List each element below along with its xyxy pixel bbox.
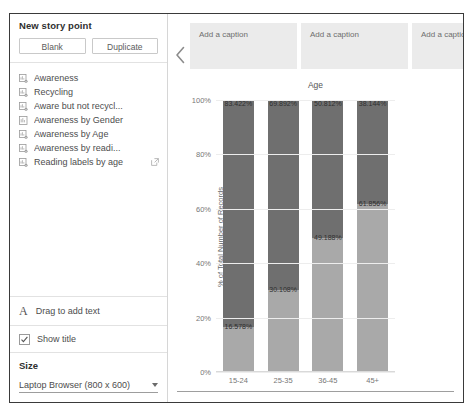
drag-to-add-text[interactable]: A Drag to add text [10,297,167,325]
chart-title: Age [168,80,463,90]
bar-column: 69.892%30.108%25-35 [261,100,306,372]
plot-area: 83.422%16.578%15-2469.892%30.108%25-3550… [216,100,395,372]
chevron-left-icon [175,46,186,64]
x-axis-tick: 36-45 [318,376,337,385]
bar-column: 83.422%16.578%15-24 [216,100,261,372]
open-external-icon[interactable] [151,158,159,166]
worksheet-icon [19,88,28,97]
sheet-list-item[interactable]: Awareness by Gender [10,113,167,127]
sheet-list-item[interactable]: Aware but not recycl... [10,99,167,113]
caption-placeholder: Add a caption [199,30,248,39]
bar-segment-top[interactable]: 69.892% [268,100,299,290]
bar-segment-bottom[interactable]: 49.188% [312,238,343,372]
size-dropdown-value: Laptop Browser (800 x 600) [19,380,147,390]
story-editor-window: New story point Blank Duplicate Awarenes… [9,13,464,403]
gridline [216,263,395,264]
sheet-list-item-label: Awareness by Age [34,129,159,139]
gridline [216,100,395,101]
show-title-checkbox[interactable] [19,334,30,345]
sheet-list-item[interactable]: Recycling [10,85,167,99]
x-axis-tick: 25-35 [274,376,293,385]
caption-box[interactable]: Add a caption [190,23,297,69]
story-canvas: Add a captionAdd a captionAdd a caption … [168,14,463,402]
y-axis-tick: 80% [196,150,211,159]
text-A-icon: A [19,304,28,319]
bar-column: 50.812%49.188%36-45 [306,100,351,372]
size-section: Size Laptop Browser (800 x 600) [10,353,167,402]
sheet-list-item[interactable]: Awareness [10,71,167,85]
bar-segment-bottom[interactable]: 61.856% [357,204,388,372]
new-story-point-panel: New story point Blank Duplicate [10,14,167,63]
panel-title: New story point [19,20,158,31]
caption-box[interactable]: Add a caption [301,23,408,69]
worksheet-icon [19,130,28,139]
bar-segment-bottom[interactable]: 30.108% [268,290,299,372]
stacked-bar[interactable]: 38.144%61.856% [357,100,388,372]
y-axis-tick: 20% [196,313,211,322]
bar-segment-bottom[interactable]: 16.578% [223,327,254,372]
gridline [216,372,395,373]
sheet-list-item-label: Reading labels by age [34,157,147,167]
sheet-list-item-label: Awareness [34,73,159,83]
bar-segment-top[interactable]: 83.422% [223,100,254,327]
sheet-list-item-label: Aware but not recycl... [34,101,159,111]
sheet-list-item-label: Recycling [34,87,159,97]
show-title-label: Show title [37,334,76,344]
caption-box[interactable]: Add a caption [412,23,463,69]
bar-value-label: 83.422% [225,100,253,331]
story-point-type-buttons: Blank Duplicate [19,38,158,54]
caption-placeholder: Add a caption [310,30,359,39]
sheet-list: AwarenessRecyclingAware but not recycl..… [10,63,167,297]
bar-group: 83.422%16.578%15-2469.892%30.108%25-3550… [216,100,395,372]
size-heading: Size [19,360,158,371]
gridline [216,209,395,210]
sheet-list-item[interactable]: Awareness by Age [10,127,167,141]
bar-segment-top[interactable]: 50.812% [312,100,343,238]
y-axis-tick: 0% [200,368,211,377]
screenshot-root: New story point Blank Duplicate Awarenes… [0,0,474,416]
canvas-bottom-rule [177,391,454,392]
checkmark-icon [20,335,29,344]
story-sidebar: New story point Blank Duplicate Awarenes… [10,14,168,402]
x-axis-tick: 45+ [366,376,379,385]
stacked-bar[interactable]: 69.892%30.108% [268,100,299,372]
x-axis-tick: 15-24 [229,376,248,385]
sheet-list-item-label: Awareness by readi... [34,143,159,153]
show-title-section: Show title [10,326,167,353]
drag-to-add-text-section: A Drag to add text [10,297,167,326]
worksheet-icon [19,158,28,167]
drag-to-add-text-label: Drag to add text [36,306,100,316]
stacked-bar[interactable]: 50.812%49.188% [312,100,343,372]
y-axis-tick: 40% [196,259,211,268]
worksheet-icon [19,74,28,83]
gridline [216,154,395,155]
bar-column: 38.144%61.856%45+ [350,100,395,372]
chevron-down-icon [152,383,158,387]
bar-segment-top[interactable]: 38.144% [357,100,388,204]
sheet-list-item-label: Awareness by Gender [34,115,159,125]
worksheet-icon [19,144,28,153]
y-axis-tick: 60% [196,204,211,213]
y-axis-tick: 100% [192,96,211,105]
chart-container: Age % of Total Number of Records 83.422%… [168,72,463,402]
duplicate-button[interactable]: Duplicate [92,38,159,54]
sheet-list-item[interactable]: Awareness by readi... [10,141,167,155]
caption-placeholder: Add a caption [421,30,463,39]
sheet-list-item[interactable]: Reading labels by age [10,155,167,169]
size-dropdown[interactable]: Laptop Browser (800 x 600) [19,380,158,393]
gridline [216,318,395,319]
bar-value-label: 69.892% [269,100,297,294]
stacked-bar[interactable]: 83.422%16.578% [223,100,254,372]
worksheet-icon [19,102,28,111]
dashboard-icon [19,116,28,125]
collapse-sidebar-button[interactable] [172,44,188,66]
caption-strip: Add a captionAdd a captionAdd a caption [190,23,463,69]
show-title-row[interactable]: Show title [10,326,167,352]
blank-button[interactable]: Blank [19,38,86,54]
bar-value-label: 50.812% [314,100,342,242]
